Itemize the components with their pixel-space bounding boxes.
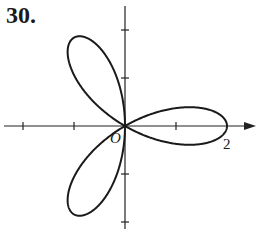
x-axis-arrow-icon bbox=[244, 122, 256, 130]
x-tick-label-2: 2 bbox=[223, 136, 231, 152]
origin-label: O bbox=[110, 130, 121, 146]
figure: 30. O 2 bbox=[0, 0, 261, 230]
polar-plot: O 2 bbox=[0, 0, 261, 230]
